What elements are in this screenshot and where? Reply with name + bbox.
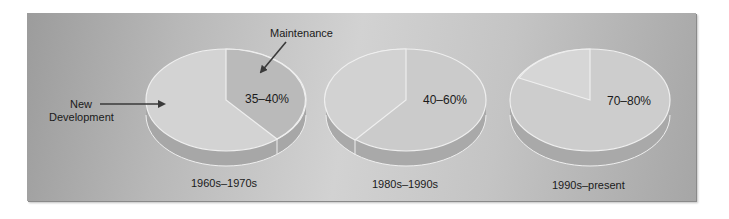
pie2-era-label: 1980s–1990s — [372, 178, 438, 190]
pie-1980s-1990s — [325, 49, 486, 166]
new-development-label-line1: New — [70, 98, 92, 110]
pie-1960s-1970s — [146, 49, 306, 166]
pie1-era-label: 1960s–1970s — [191, 177, 257, 189]
new-development-label-line2: Development — [49, 111, 114, 123]
pie3-percent-label: 70–80% — [607, 95, 651, 107]
maintenance-label: Maintenance — [270, 27, 333, 39]
pie3-era-label: 1990s–present — [552, 179, 625, 191]
pie1-percent-label: 35–40% — [245, 93, 289, 105]
pie2-percent-label: 40–60% — [423, 94, 467, 106]
